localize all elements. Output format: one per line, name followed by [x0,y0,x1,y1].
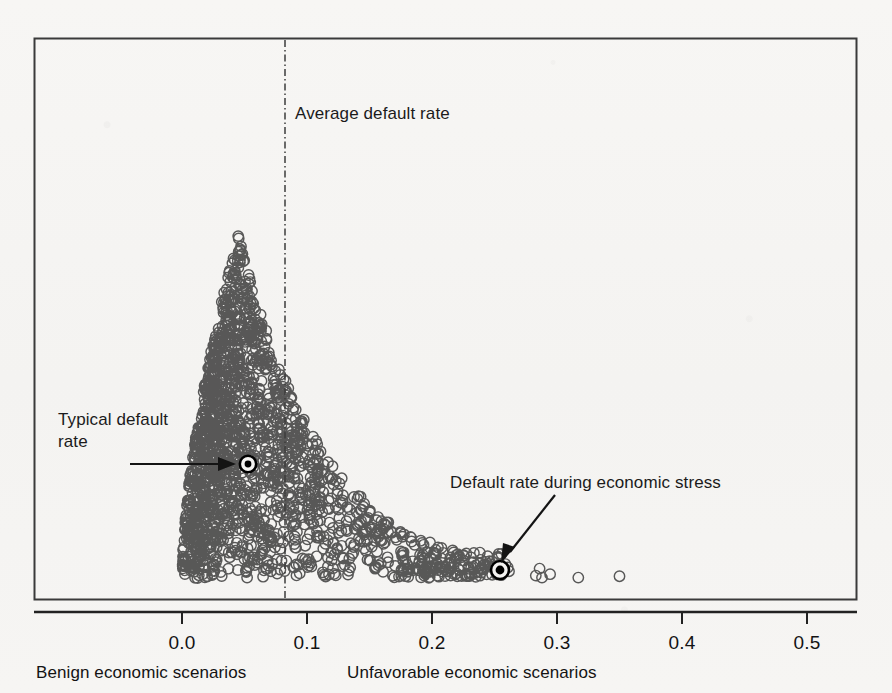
scatter-markers [177,231,624,583]
stress-default-rate-arrow [501,495,555,563]
stress-default-rate-marker [490,560,510,580]
x-tick-label-4: 0.4 [668,632,695,654]
scatter-plot-figure: Average default rate Typical default rat… [0,0,892,693]
typical-default-rate-label-line1: Typical default [58,409,168,431]
x-tick-label-2: 0.2 [418,632,445,654]
benign-scenarios-caption: Benign economic scenarios [36,663,246,683]
x-tick-label-3: 0.3 [543,632,570,654]
typical-default-rate-arrow [130,457,236,471]
x-axis-ticks [182,612,807,624]
typical-default-rate-marker [239,455,257,473]
scatter-point-cloud [177,231,624,583]
stress-default-rate-label: Default rate during economic stress [450,472,721,494]
x-tick-label-0: 0.0 [168,632,195,654]
typical-default-rate-label-line2: rate [58,431,88,453]
x-tick-label-1: 0.1 [293,632,320,654]
unfavorable-scenarios-caption: Unfavorable economic scenarios [347,663,597,683]
average-default-rate-label: Average default rate [295,103,450,125]
x-tick-label-5: 0.5 [793,632,820,654]
